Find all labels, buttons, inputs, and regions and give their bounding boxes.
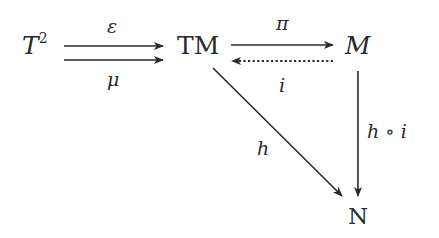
node-t2: T2	[22, 33, 48, 58]
h-arrow	[213, 68, 342, 196]
label-i: i	[279, 76, 285, 95]
node-t2-exponent: 2	[39, 30, 48, 46]
node-n: N	[348, 205, 368, 228]
label-mu: μ	[107, 70, 119, 89]
node-tm: TM	[177, 33, 219, 58]
diagram-arrows	[0, 0, 439, 238]
label-pi: π	[276, 14, 289, 33]
commutative-diagram: T2 TM M N ε μ π i h h ∘ i	[0, 0, 439, 238]
label-h-compose-i: h ∘ i	[367, 122, 407, 141]
label-epsilon: ε	[107, 17, 117, 36]
node-m: M	[345, 33, 371, 58]
label-h: h	[257, 139, 269, 158]
node-t2-base: T	[22, 31, 39, 60]
